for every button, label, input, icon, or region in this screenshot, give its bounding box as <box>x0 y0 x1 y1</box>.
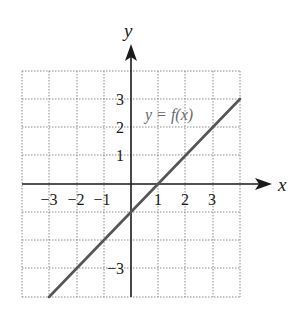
y-tick-label: −3 <box>107 260 124 277</box>
y-tick-label: 3 <box>116 91 124 108</box>
y-tick-label: 2 <box>116 119 124 136</box>
x-tick-label: 2 <box>181 191 189 208</box>
x-axis-label: x <box>277 174 287 195</box>
graph-figure: x y −3 −2 −1 1 2 3 3 2 1 −3 y = f(x) <box>0 0 297 316</box>
x-tick-label: −3 <box>40 191 57 208</box>
x-tick-label: −2 <box>67 191 84 208</box>
x-tick-labels: −3 −2 −1 1 2 3 <box>40 191 216 208</box>
x-tick-label: 1 <box>154 191 162 208</box>
x-tick-label: 3 <box>208 191 216 208</box>
x-tick-label: −1 <box>93 191 110 208</box>
axes <box>22 44 272 297</box>
curve-label: y = f(x) <box>143 106 193 124</box>
y-tick-label: 1 <box>116 147 124 164</box>
y-axis-label: y <box>122 20 133 41</box>
